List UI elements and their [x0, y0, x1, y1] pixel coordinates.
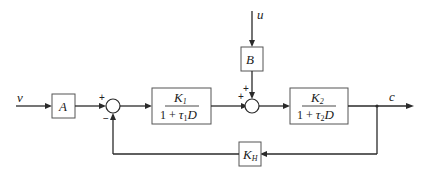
g1-denominator: 1 + τ1D — [160, 107, 197, 123]
block-b-label: B — [246, 52, 254, 67]
arrow-icon — [249, 92, 255, 99]
s1-minus-sign: − — [103, 113, 109, 124]
arrow-icon — [145, 103, 152, 109]
summing-junction-1 — [106, 99, 120, 113]
arrow-icon — [406, 103, 414, 109]
s1-plus-sign: + — [99, 92, 105, 103]
arrow-icon — [249, 40, 255, 47]
arrow-icon — [283, 103, 290, 109]
s2-plus-sign-top: + — [243, 83, 249, 94]
output-c-label: c — [389, 89, 395, 104]
arrow-icon — [45, 103, 52, 109]
arrow-icon — [110, 113, 116, 120]
block-a-label: A — [58, 99, 67, 114]
summing-junction-2 — [245, 99, 259, 113]
arrow-icon — [99, 103, 106, 109]
input-v-label: v — [17, 90, 23, 105]
g2-denominator: 1 + τ2D — [297, 107, 334, 123]
input-u-label: u — [257, 7, 264, 22]
block-diagram: v A + − K1 1 + τ1D u B + + K2 1 + τ2D c — [0, 0, 429, 178]
